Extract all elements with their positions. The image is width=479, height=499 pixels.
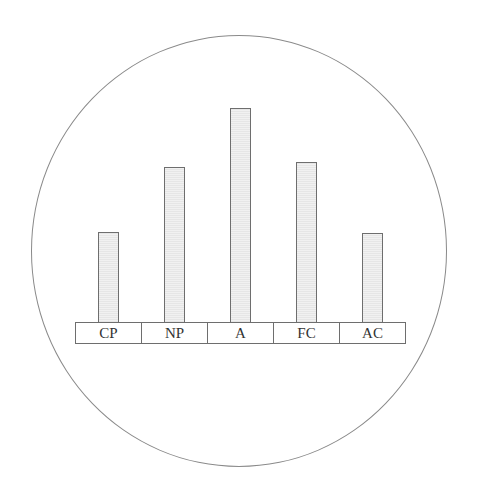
category-label-ac: AC [340, 323, 405, 343]
category-label-cp: CP [76, 323, 142, 343]
category-label-fc: FC [274, 323, 340, 343]
category-label-np: NP [142, 323, 208, 343]
bar-np [164, 167, 185, 322]
bar-cp [98, 232, 119, 322]
bar-fc [296, 162, 317, 322]
category-label-a: A [208, 323, 274, 343]
bar-a [230, 108, 251, 322]
bar-ac [362, 233, 383, 322]
category-label-strip: CP NP A FC AC [75, 322, 406, 344]
